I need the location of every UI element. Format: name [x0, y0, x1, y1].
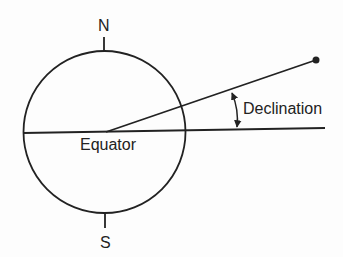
declination-diagram: N S Equator Declination: [0, 0, 343, 257]
diagram-svg: N S Equator Declination: [0, 0, 343, 257]
declination-label: Declination: [243, 100, 322, 117]
equator-label: Equator: [80, 136, 137, 153]
equator-line: [23, 128, 325, 133]
south-label: S: [100, 234, 111, 251]
star-direction-line: [106, 60, 316, 132]
star-dot: [313, 57, 320, 64]
north-label: N: [98, 17, 110, 34]
declination-arc-arrow: [232, 93, 237, 127]
